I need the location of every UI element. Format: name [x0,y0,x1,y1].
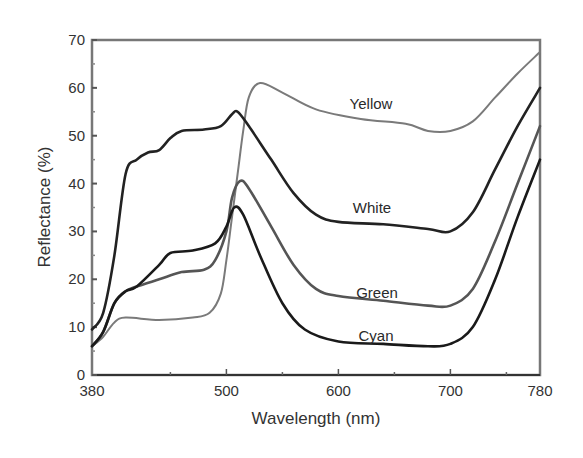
series-line-yellow [92,52,540,346]
y-tick-label: 60 [68,79,85,96]
y-tick-label: 0 [77,366,85,383]
y-tick-label: 40 [68,175,85,192]
x-axis-ticks: 380500600700780 [79,369,552,399]
x-axis-title: Wavelength (nm) [252,409,381,428]
label-cyan: Cyan [358,327,393,344]
x-tick-label: 500 [214,382,239,399]
label-green: Green [356,284,398,301]
y-tick-label: 20 [68,270,85,287]
series-line-cyan [92,160,540,347]
series-line-white [92,88,540,330]
y-tick-label: 70 [68,31,85,48]
series-line-green [92,126,540,346]
reflectance-chart: 010203040506070 380500600700780 Yellow W… [0,0,583,458]
y-tick-label: 10 [68,318,85,335]
x-tick-label: 780 [527,382,552,399]
label-yellow: Yellow [350,95,393,112]
y-axis-title: Reflectance (%) [35,147,54,268]
y-tick-label: 30 [68,222,85,239]
label-white: White [353,199,391,216]
x-tick-label: 600 [326,382,351,399]
plot-frame [92,40,540,375]
x-tick-label: 380 [79,382,104,399]
x-tick-label: 700 [438,382,463,399]
y-tick-label: 50 [68,127,85,144]
series-lines [92,52,540,346]
